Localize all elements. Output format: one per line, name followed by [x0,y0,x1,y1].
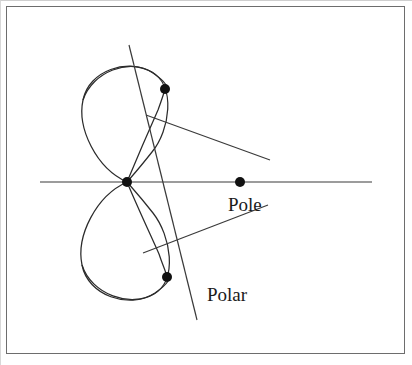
point-tangency-lower [162,272,172,282]
point-node [122,177,132,187]
tangent-line-upper [146,115,270,160]
point-tangency-upper [160,84,170,94]
curve-lower-outer-arc [82,265,168,300]
pole-label: Pole [228,195,262,214]
curve-upper-loop [82,66,168,182]
curve-lower-branch [127,182,167,277]
curve-lower-loop [81,182,169,300]
curve-upper-outer-arc [83,66,166,100]
point-pole [235,177,245,187]
figure-root: Pole Polar [0,0,412,365]
polar-label: Polar [207,285,247,304]
geometry-drawing [0,0,412,365]
